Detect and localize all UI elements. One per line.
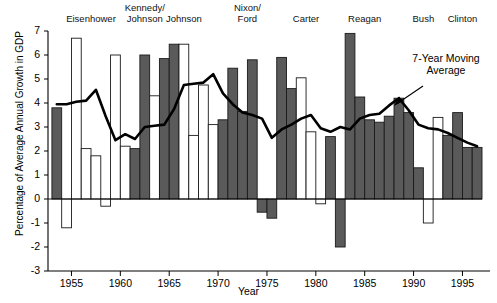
bar bbox=[218, 120, 228, 199]
bar bbox=[52, 108, 62, 199]
bar bbox=[306, 132, 316, 199]
bar bbox=[111, 55, 121, 199]
bar bbox=[179, 44, 189, 199]
bar bbox=[159, 59, 169, 199]
bar bbox=[130, 149, 140, 199]
bar bbox=[62, 199, 72, 228]
bar bbox=[91, 156, 101, 199]
bar bbox=[199, 85, 209, 199]
bar bbox=[71, 38, 81, 199]
bar bbox=[345, 33, 355, 199]
bar bbox=[267, 199, 277, 218]
bar bbox=[316, 199, 326, 204]
bar bbox=[208, 125, 218, 199]
bar bbox=[462, 147, 472, 199]
bar bbox=[384, 116, 394, 199]
bar bbox=[247, 60, 257, 199]
bar bbox=[404, 113, 414, 199]
bar bbox=[326, 137, 336, 199]
bar bbox=[238, 111, 248, 199]
bar bbox=[472, 147, 482, 199]
bar bbox=[365, 120, 375, 199]
bar bbox=[355, 97, 365, 199]
bar bbox=[169, 44, 179, 199]
bar bbox=[453, 113, 463, 199]
plot-area bbox=[0, 0, 497, 303]
bar bbox=[189, 135, 199, 199]
bar bbox=[414, 168, 424, 199]
bar bbox=[257, 199, 267, 212]
bar bbox=[287, 89, 297, 199]
bar bbox=[335, 199, 345, 247]
bar bbox=[101, 199, 111, 206]
bar bbox=[443, 135, 453, 199]
gdp-growth-chart: Percentage of Average Annual Growth in G… bbox=[0, 0, 497, 303]
bar bbox=[423, 199, 433, 223]
bar bbox=[120, 146, 130, 199]
bar bbox=[394, 98, 404, 199]
bar bbox=[228, 68, 238, 199]
bar bbox=[81, 149, 91, 199]
bar bbox=[374, 122, 384, 199]
bar bbox=[150, 96, 160, 199]
bar bbox=[296, 78, 306, 199]
